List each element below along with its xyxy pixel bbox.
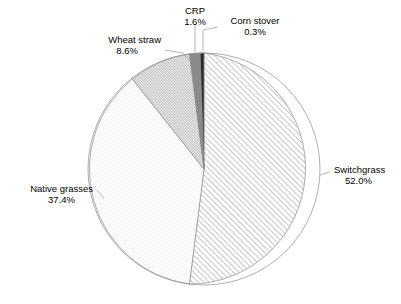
pie-chart-svg: Switchgrass 52.0% Native grasses 37.4% W… <box>0 0 401 304</box>
label-crp-value: 1.6% <box>184 16 206 27</box>
pie-slice-switchgrass <box>189 53 305 284</box>
pie-chart-figure: Switchgrass 52.0% Native grasses 37.4% W… <box>0 0 401 304</box>
label-crp-name: CRP <box>185 5 205 16</box>
label-native-grasses-value: 37.4% <box>48 194 75 205</box>
leader-line-switchgrass <box>320 172 330 175</box>
label-native-grasses-name: Native grasses <box>30 183 93 194</box>
leader-line-corn-stover <box>203 27 218 53</box>
label-corn-stover-name: Corn stover <box>230 15 279 26</box>
label-switchgrass-value: 52.0% <box>345 175 372 186</box>
label-switchgrass-name: Switchgrass <box>334 164 385 175</box>
label-wheat-straw-name: Wheat straw <box>108 34 161 45</box>
label-corn-stover-value: 0.3% <box>244 26 266 37</box>
label-wheat-straw-value: 8.6% <box>116 45 138 56</box>
